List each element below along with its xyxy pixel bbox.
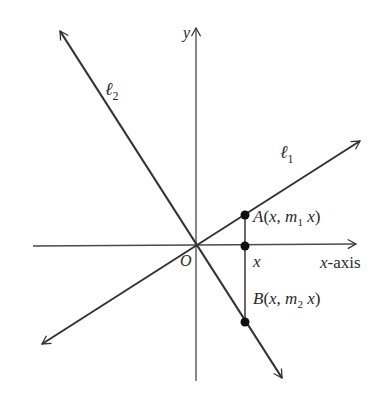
point-x-on-axis [241,242,250,251]
line-l1-label: ℓ1 [280,142,294,166]
point-b [241,318,250,327]
point-a [241,211,250,220]
line-l2 [60,31,282,378]
y-axis-label: y [181,24,191,42]
point-x-label: x [252,252,261,271]
perpendicular-lines-diagram: y x-axis O ℓ1 ℓ2 A(x, m1 x) x B(x, m2 x) [0,0,382,399]
point-b-label: B(x, m2 x) [253,289,320,310]
line-l2-label: ℓ2 [105,79,119,103]
line-l1 [42,141,360,344]
point-a-label: A(x, m1 x) [252,207,320,228]
x-axis-label: x-axis [319,253,361,272]
origin-label: O [180,252,192,269]
